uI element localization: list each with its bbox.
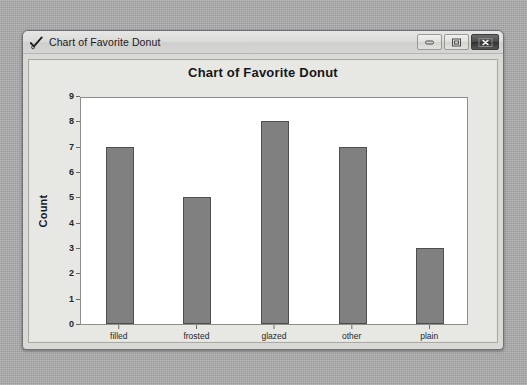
y-axis-tick-label: 8	[69, 116, 74, 127]
x-axis-tick-label: filled	[110, 331, 127, 341]
x-axis-tick: filled	[110, 325, 127, 341]
y-axis-tick-label: 7	[69, 142, 74, 153]
x-axis-tick-label: glazed	[261, 331, 286, 341]
bar[interactable]	[339, 147, 367, 324]
y-axis-tick-label: 0	[69, 319, 74, 330]
chart-title: Chart of Favorite Donut	[30, 65, 496, 80]
window-titlebar[interactable]: Chart of Favorite Donut	[23, 31, 503, 54]
bar[interactable]	[183, 197, 211, 324]
maximize-icon	[450, 37, 463, 48]
graph-content-panel: Chart of Favorite Donut Count 0123456789…	[28, 59, 498, 343]
x-axis-tick-mark	[274, 325, 275, 329]
window-title: Chart of Favorite Donut	[49, 36, 417, 48]
x-axis-tick-label: frosted	[183, 331, 209, 341]
x-axis-tick-mark	[351, 325, 352, 329]
window-controls	[417, 34, 501, 50]
x-axis-tick-mark	[429, 325, 430, 329]
bar[interactable]	[106, 147, 134, 324]
x-axis-tick-label: plain	[420, 331, 438, 341]
y-axis-tick-label: 4	[69, 218, 74, 229]
close-button[interactable]	[471, 34, 499, 50]
x-axis-tick: other	[342, 325, 361, 341]
minitab-check-icon	[29, 35, 44, 50]
minimize-button[interactable]	[417, 34, 442, 50]
y-axis-tick-label: 1	[69, 294, 74, 305]
graph-surface[interactable]: Chart of Favorite Donut Count 0123456789…	[30, 61, 496, 341]
bar[interactable]	[261, 121, 289, 324]
y-axis-tick-label: 5	[69, 192, 74, 203]
bar[interactable]	[416, 248, 444, 324]
x-axis-tick-mark	[196, 325, 197, 329]
x-axis-ticks: filledfrostedglazedotherplain	[80, 325, 468, 347]
plot-area	[80, 97, 468, 325]
maximize-button[interactable]	[444, 34, 469, 50]
x-axis-tick-mark	[118, 325, 119, 329]
y-axis-tick-label: 6	[69, 167, 74, 178]
y-axis-tick-label: 9	[69, 91, 74, 102]
bars-layer	[81, 98, 467, 324]
minimize-icon	[423, 38, 436, 47]
chart-window[interactable]: Chart of Favorite Donut	[22, 30, 504, 350]
x-axis-tick-label: other	[342, 331, 361, 341]
close-icon	[478, 37, 493, 48]
x-axis-tick: frosted	[183, 325, 209, 341]
x-axis-title: Favorite Donut	[80, 349, 468, 350]
y-axis-tick-label: 2	[69, 268, 74, 279]
y-axis-tick-label: 3	[69, 243, 74, 254]
x-axis-tick: plain	[420, 325, 438, 341]
x-axis-tick: glazed	[261, 325, 286, 341]
y-axis-ticks: 0123456789	[30, 97, 80, 325]
